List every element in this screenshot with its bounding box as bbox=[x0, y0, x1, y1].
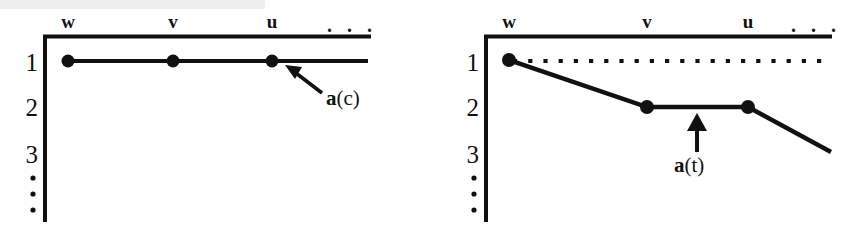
row-label-1: 1 bbox=[445, 50, 479, 75]
figure-root: w v u . . . 1 2 3 a(c) bbox=[0, 0, 851, 228]
annotation-label-at: a(t) bbox=[674, 155, 704, 176]
column-header-w: w bbox=[48, 12, 88, 31]
row-label-3: 3 bbox=[4, 142, 38, 167]
annotation-ac-prefix: a bbox=[326, 86, 337, 110]
column-header-ellipsis: . . . bbox=[791, 15, 841, 35]
trace-point-u bbox=[266, 55, 279, 68]
trace-point-u bbox=[741, 100, 755, 114]
column-header-ellipsis: . . . bbox=[327, 15, 377, 35]
annotation-ac-suffix: (c) bbox=[337, 86, 360, 110]
annotation-label-ac: a(c) bbox=[326, 88, 360, 109]
row-label-1: 1 bbox=[4, 50, 38, 75]
column-header-w: w bbox=[489, 12, 529, 31]
annotation-at-prefix: a bbox=[674, 153, 685, 177]
diagram-panel-right: w v u . . . 1 2 3 a(t) bbox=[425, 0, 850, 228]
annotation-at-suffix: (t) bbox=[685, 153, 705, 177]
trace-point-v bbox=[640, 100, 654, 114]
column-header-v: v bbox=[627, 12, 667, 31]
annotation-arrow-ac bbox=[285, 65, 322, 93]
row-label-3: 3 bbox=[445, 142, 479, 167]
trace-at-line bbox=[509, 60, 831, 152]
row-label-2: 2 bbox=[445, 95, 479, 120]
annotation-arrow-at bbox=[687, 113, 707, 152]
row-vertical-ellipsis bbox=[18, 172, 48, 228]
row-vertical-ellipsis bbox=[459, 172, 489, 228]
trace-point-v bbox=[167, 55, 180, 68]
trace-point-w bbox=[502, 53, 516, 67]
column-header-u: u bbox=[252, 12, 292, 31]
diagram-panel-left: w v u . . . 1 2 3 a(c) bbox=[0, 0, 425, 228]
column-header-u: u bbox=[728, 12, 768, 31]
column-header-v: v bbox=[153, 12, 193, 31]
trace-point-w bbox=[62, 55, 75, 68]
row-label-2: 2 bbox=[4, 95, 38, 120]
